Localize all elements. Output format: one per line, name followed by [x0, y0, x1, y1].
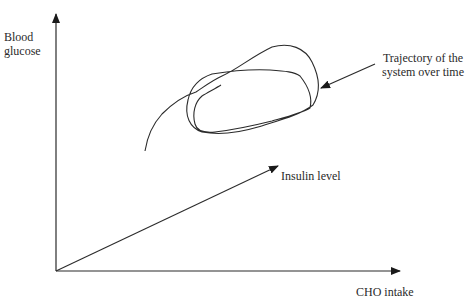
y-axis-label-line1: Blood [4, 30, 41, 44]
annotation-line2: system over time [382, 65, 464, 79]
y-axis-label-line2: glucose [4, 44, 41, 58]
y-axis-label: Blood glucose [4, 30, 41, 58]
x-axis-label: CHO intake [356, 285, 414, 299]
phase-space-diagram [0, 0, 472, 302]
trajectory-annotation: Trajectory of the system over time [382, 51, 464, 79]
z-axis-label: Insulin level [281, 169, 341, 183]
annotation-arrow [321, 64, 375, 88]
annotation-line1: Trajectory of the [382, 51, 464, 65]
z-axis-insulin-level [56, 166, 278, 271]
trajectory-curve [145, 45, 319, 151]
